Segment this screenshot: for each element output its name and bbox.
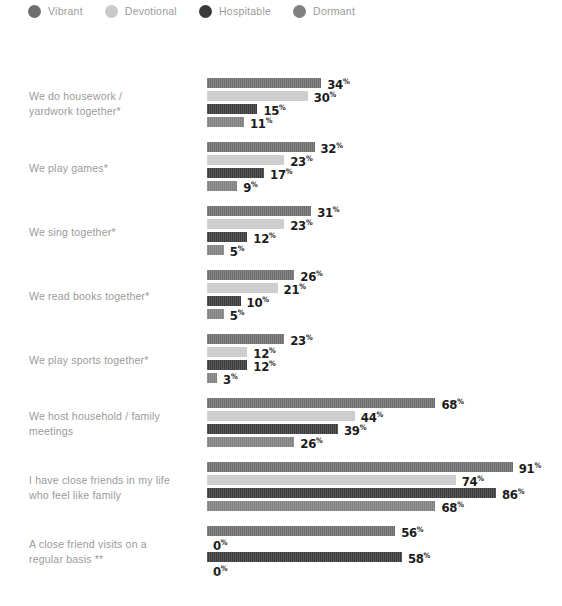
bar-dormant[interactable] [207,373,217,383]
bar-row: 68% [207,501,562,511]
bar-value-label: 68% [441,395,463,412]
bar-dormant[interactable] [207,117,244,127]
bar-hospitable[interactable] [207,488,496,498]
percent-sign: % [279,103,286,112]
percent-sign: % [518,487,525,496]
bar-group-bars: 68%44%39%26% [207,398,562,450]
bar-devotional[interactable] [207,219,284,229]
category-label-line: We sing together* [29,225,199,240]
bar-row: 32% [207,142,562,152]
bar-row: 10% [207,296,562,306]
bar-group: We host household / familymeetings68%44%… [0,398,562,450]
bar-vibrant[interactable] [207,398,435,408]
category-label: We sing together* [29,225,199,240]
bar-row: 86% [207,488,562,498]
bar-row: 56% [207,526,562,536]
bar-vibrant[interactable] [207,334,284,344]
bar-row: 5% [207,245,562,255]
bar-row: 23% [207,219,562,229]
category-label-line: meetings [29,424,199,439]
legend-item-vibrant[interactable]: Vibrant [28,5,83,18]
bar-group: We do housework /yardwork together*34%30… [0,78,562,130]
category-label-line: We host household / family [29,409,199,424]
bar-group-bars: 32%23%17%9% [207,142,562,194]
bar-devotional[interactable] [207,91,308,101]
bar-dormant[interactable] [207,309,224,319]
percent-sign: % [306,333,313,342]
category-label-line: I have close friends in my life [29,473,199,488]
bar-dormant[interactable] [207,501,435,511]
bar-value-label: 86% [502,485,524,502]
bar-row: 39% [207,424,562,434]
legend-swatch-circle-icon [293,5,306,18]
bar-vibrant[interactable] [207,142,315,152]
legend-swatch-circle-icon [28,5,41,18]
chart-page: { "legend": { "position": "top-left", "i… [0,0,562,606]
bar-value-label: 23% [290,152,312,169]
percent-sign: % [221,564,228,573]
category-label-line: We read books together* [29,289,199,304]
bar-hospitable[interactable] [207,232,247,242]
percent-sign: % [457,397,464,406]
bar-vibrant[interactable] [207,270,294,280]
category-label-line: regular basis ** [29,552,199,567]
category-label: We read books together* [29,289,199,304]
bar-vibrant[interactable] [207,462,513,472]
legend-item-dormant[interactable]: Dormant [293,5,355,18]
category-label: I have close friends in my lifewho feel … [29,473,199,503]
bar-value-label: 74% [462,472,484,489]
bar-hospitable[interactable] [207,104,257,114]
bar-row: 17% [207,168,562,178]
bar-row: 0% [207,539,562,549]
bar-hospitable[interactable] [207,552,402,562]
bar-row: 9% [207,181,562,191]
bar-group: I have close friends in my lifewho feel … [0,462,562,514]
bar-dormant[interactable] [207,181,237,191]
bar-hospitable[interactable] [207,168,264,178]
category-label: We play games* [29,161,199,176]
percent-sign: % [477,474,484,483]
percent-sign: % [269,346,276,355]
bar-vibrant[interactable] [207,78,321,88]
bar-vibrant[interactable] [207,526,395,536]
bar-value-number: 11 [250,116,266,131]
bar-value-label: 9% [243,178,258,195]
bar-devotional[interactable] [207,411,355,421]
bar-group: We sing together*31%23%12%5% [0,206,562,258]
legend-item-devotional[interactable]: Devotional [105,5,177,18]
bar-row: 58% [207,552,562,562]
percent-sign: % [306,154,313,163]
bar-hospitable[interactable] [207,360,247,370]
bar-value-number: 5 [230,308,238,323]
bar-row: 91% [207,462,562,472]
bar-group-bars: 26%21%10%5% [207,270,562,322]
bar-devotional[interactable] [207,475,456,485]
category-label: A close friend visits on aregular basis … [29,537,199,567]
category-label: We play sports together* [29,353,199,368]
bar-devotional[interactable] [207,155,284,165]
bar-group-bars: 56%0%58%0% [207,526,562,578]
bar-row: 26% [207,437,562,447]
bar-value-label: 21% [284,280,306,297]
bar-value-label: 5% [230,242,245,259]
bar-row: 34% [207,78,562,88]
bar-hospitable[interactable] [207,296,241,306]
bar-row: 31% [207,206,562,216]
bar-dormant[interactable] [207,437,294,447]
bar-hospitable[interactable] [207,424,338,434]
legend-item-hospitable[interactable]: Hospitable [199,5,271,18]
percent-sign: % [316,436,323,445]
legend-item-label: Hospitable [219,5,271,17]
bar-devotional[interactable] [207,347,247,357]
legend-item-label: Dormant [313,5,355,17]
bar-value-label: 39% [344,421,366,438]
bar-devotional[interactable] [207,283,278,293]
legend-item-label: Vibrant [48,5,83,17]
bar-dormant[interactable] [207,245,224,255]
bar-row: 15% [207,104,562,114]
bar-row: 68% [207,398,562,408]
bar-vibrant[interactable] [207,206,311,216]
bar-group-bars: 91%74%86%68% [207,462,562,514]
percent-sign: % [336,141,343,150]
bar-group: We read books together*26%21%10%5% [0,270,562,322]
